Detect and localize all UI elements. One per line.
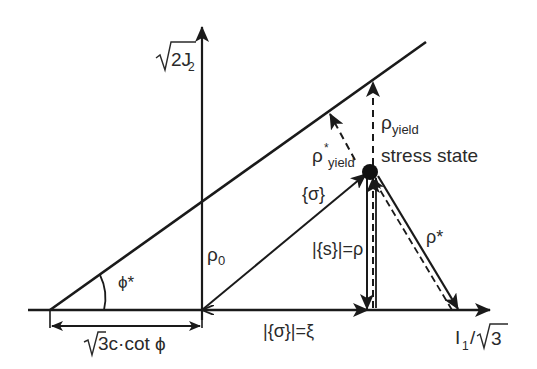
stress-state-point [362, 164, 378, 180]
svg-text:0: 0 [218, 253, 225, 268]
svg-text:*: * [324, 141, 329, 155]
deviatoric-rho-label: |{s}|=ρ [312, 239, 363, 259]
svg-text:3c·cot ϕ: 3c·cot ϕ [98, 333, 166, 354]
rho-star-yield-label: ρ * yield [312, 141, 355, 170]
svg-text:3: 3 [491, 328, 502, 349]
phi-star-label: ϕ* [118, 273, 135, 292]
rho-yield-label: ρ yield [381, 112, 419, 137]
svg-text:/: / [470, 327, 476, 348]
svg-text:yield: yield [392, 122, 419, 137]
svg-text:2: 2 [188, 60, 195, 74]
xi-label: |{σ}|=ξ [263, 321, 314, 341]
sigma-label: {σ} [302, 184, 325, 204]
rho-star-yield-vector [330, 114, 355, 160]
phi-angle-arc [100, 275, 105, 310]
rho-0-label: ρ 0 [207, 244, 225, 268]
svg-text:ρ: ρ [207, 244, 218, 265]
svg-text:ϕ*: ϕ* [118, 273, 135, 292]
stress-state-label: stress state [381, 145, 478, 166]
stress-space-diagram: 2J 2 I 1 / 3 ϕ* ρ 0 3c·cot ϕ {σ} |{s}|=ρ… [0, 0, 537, 369]
cohesion-offset-label: 3c·cot ϕ [84, 332, 166, 355]
svg-text:ρ: ρ [381, 112, 392, 133]
svg-text:I: I [455, 327, 460, 348]
svg-text:1: 1 [462, 339, 469, 353]
svg-text:yield: yield [328, 155, 355, 170]
horizontal-axis-label: I 1 / 3 [455, 324, 508, 353]
vertical-axis-label: 2J 2 [156, 42, 196, 74]
svg-text:ρ: ρ [312, 145, 323, 166]
rho-star-vector [378, 176, 458, 309]
rho-star-label: ρ* [426, 227, 443, 247]
